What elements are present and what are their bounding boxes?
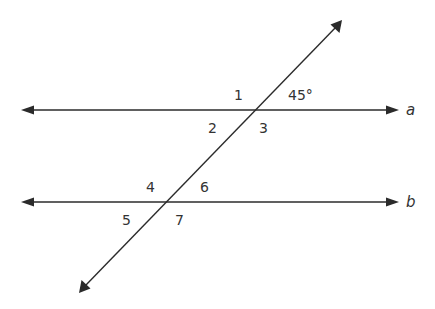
angle-1-label: 1 <box>234 87 243 103</box>
line-a <box>21 106 399 115</box>
line-a-label: a <box>406 101 415 119</box>
diagram-canvas: a b 1 45° 2 3 4 6 5 7 <box>0 0 435 309</box>
line-b-label: b <box>406 193 416 211</box>
angle-7-label: 7 <box>175 212 184 228</box>
angle-45-label: 45° <box>288 87 313 103</box>
angle-5-label: 5 <box>122 212 131 228</box>
line-b <box>21 198 399 207</box>
angle-2-label: 2 <box>208 120 217 136</box>
angle-3-label: 3 <box>259 120 268 136</box>
angle-6-label: 6 <box>200 179 209 195</box>
line-b-right-arrowhead <box>386 198 399 207</box>
transversal <box>79 20 342 293</box>
line-a-right-arrowhead <box>386 106 399 115</box>
line-b-left-arrowhead <box>21 198 34 207</box>
line-a-left-arrowhead <box>21 106 34 115</box>
angle-4-label: 4 <box>146 179 155 195</box>
